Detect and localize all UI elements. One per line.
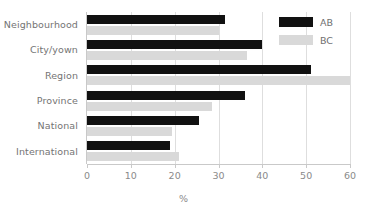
- bar-group-national: [87, 113, 350, 138]
- x-tick-mark-40: [262, 164, 263, 168]
- x-axis-title: %: [0, 193, 367, 204]
- bar-ab-international[interactable]: [87, 141, 170, 150]
- x-tick-label-50: 50: [286, 170, 326, 181]
- y-axis-label-group: Neighbourhood City/yown Region Province …: [0, 12, 83, 164]
- bar-ab-neighbourhood[interactable]: [87, 15, 225, 24]
- x-tick-mark-10: [131, 164, 132, 168]
- x-tick-label-0: 0: [67, 170, 107, 181]
- bar-bc-neighbourhood[interactable]: [87, 26, 219, 35]
- legend-label-ab: AB: [320, 17, 333, 28]
- bar-group-international: [87, 139, 350, 164]
- y-tick-label-city-town: City/yown: [0, 37, 83, 62]
- bar-group-province: [87, 88, 350, 113]
- bar-bc-national[interactable]: [87, 127, 172, 136]
- x-tick-mark-30: [219, 164, 220, 168]
- x-tick-label-20: 20: [155, 170, 195, 181]
- y-tick-label-province: Province: [0, 88, 83, 113]
- bar-chart: Neighbourhood City/yown Region Province …: [0, 0, 367, 218]
- x-tick-mark-20: [175, 164, 176, 168]
- x-tick-mark-0: [87, 164, 88, 168]
- x-tick-label-60: 60: [330, 170, 367, 181]
- legend-item-bc[interactable]: BC: [279, 32, 355, 48]
- y-tick-label-international: International: [0, 139, 83, 164]
- bar-bc-city-yown[interactable]: [87, 51, 247, 60]
- x-tick-label-40: 40: [242, 170, 282, 181]
- legend-item-ab[interactable]: AB: [279, 14, 355, 30]
- bar-group-region: [87, 63, 350, 88]
- bar-ab-city-yown[interactable]: [87, 40, 262, 49]
- x-tick-label-10: 10: [111, 170, 151, 181]
- y-tick-label-neighbourhood: Neighbourhood: [0, 12, 83, 37]
- legend-swatch-icon-bc: [279, 35, 313, 45]
- legend: AB BC: [279, 11, 355, 53]
- bar-bc-international[interactable]: [87, 152, 179, 161]
- y-tick-label-region: Region: [0, 63, 83, 88]
- legend-swatch-icon-ab: [279, 17, 313, 27]
- legend-label-bc: BC: [320, 35, 333, 46]
- bar-ab-province[interactable]: [87, 91, 245, 100]
- x-tick-label-30: 30: [199, 170, 239, 181]
- bar-bc-province[interactable]: [87, 102, 212, 111]
- x-tick-mark-50: [306, 164, 307, 168]
- y-tick-label-national: National: [0, 113, 83, 138]
- bar-bc-region[interactable]: [87, 76, 350, 85]
- bar-ab-region[interactable]: [87, 65, 311, 74]
- bar-ab-national[interactable]: [87, 116, 199, 125]
- x-tick-mark-60: [350, 164, 351, 168]
